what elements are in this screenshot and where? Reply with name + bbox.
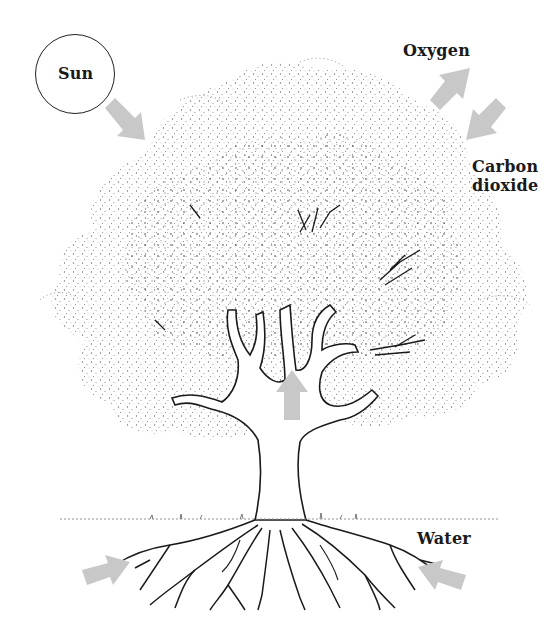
water-right-arrow xyxy=(418,560,466,590)
sunlight-arrow xyxy=(105,98,145,140)
oxygen-label: Oxygen xyxy=(403,41,470,61)
carbon-dioxide-arrow xyxy=(466,98,506,140)
sun-label: Sun xyxy=(58,64,93,84)
carbon-dioxide-label-line1: Carbon xyxy=(472,157,538,176)
tree-roots xyxy=(115,520,440,610)
carbon-dioxide-label-line2: dioxide xyxy=(472,176,538,195)
water-label: Water xyxy=(417,529,471,549)
oxygen-arrow xyxy=(430,68,470,110)
photosynthesis-diagram: Sun Oxygen Carbon dioxide Water xyxy=(0,0,556,617)
carbon-dioxide-label: Carbon dioxide xyxy=(472,157,538,195)
